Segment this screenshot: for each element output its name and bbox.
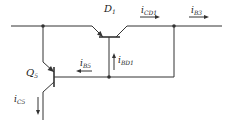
q5-collector-lead xyxy=(43,82,54,92)
arrowhead-right xyxy=(204,15,209,19)
current-label-ic5: iC5 xyxy=(14,95,25,105)
current-label-icd1: iCD1 xyxy=(141,6,157,16)
arrowhead-up xyxy=(112,53,116,58)
junction-dot xyxy=(172,24,176,28)
d1-label: D1 xyxy=(104,4,116,15)
arrowhead-down xyxy=(36,110,40,115)
circuit-diagram xyxy=(0,0,234,124)
current-label-ibd1: iBD1 xyxy=(118,56,134,66)
arrowhead-left xyxy=(76,69,81,73)
junction-dot xyxy=(107,75,111,79)
current-label-ib3: iB3 xyxy=(191,6,202,16)
q5-label: Q5 xyxy=(26,68,38,79)
current-label-ib5: iB5 xyxy=(80,59,91,69)
d1-collector-lead xyxy=(116,26,127,37)
junction-dot xyxy=(41,24,45,28)
